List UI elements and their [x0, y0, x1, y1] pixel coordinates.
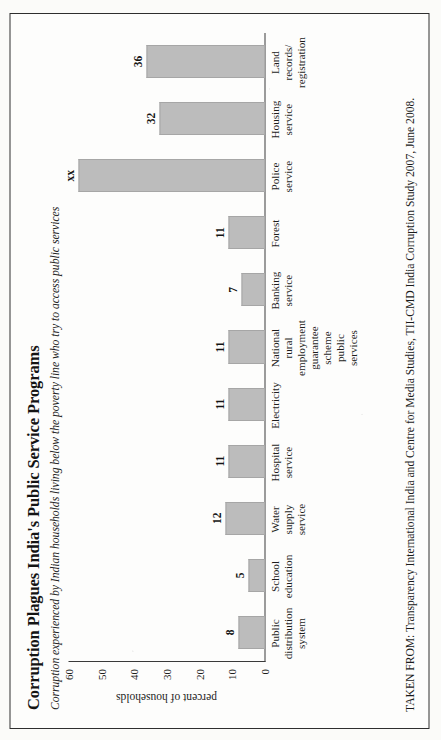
- bar-item[interactable]: 11: [68, 204, 264, 261]
- bar-rect[interactable]: [241, 273, 264, 306]
- x-category-label-line: service: [281, 435, 294, 490]
- bar-value-label: 36: [131, 56, 143, 68]
- bar-rect[interactable]: [228, 330, 264, 363]
- bar-item[interactable]: 36: [68, 33, 264, 90]
- bar-rect[interactable]: [78, 159, 264, 192]
- x-category-label: Forest: [268, 205, 360, 262]
- bar-item[interactable]: xx: [68, 147, 264, 204]
- x-category-label: Hospitalservice: [268, 434, 360, 491]
- bar-item[interactable]: 5: [68, 547, 264, 604]
- x-category-label-line: Housing: [268, 92, 281, 147]
- bar-item[interactable]: 12: [68, 490, 264, 547]
- bar-rect[interactable]: [146, 45, 264, 78]
- x-category-label: Watersupplyservice: [268, 491, 360, 548]
- x-category-label: Publicdistributionsystem: [268, 605, 360, 662]
- x-category-label-line: Electricity: [268, 378, 281, 433]
- figure-title: Corruption Plagues India's Public Servic…: [24, 30, 43, 710]
- bar-rect[interactable]: [248, 559, 264, 592]
- x-category-label: Landrecords/registration: [268, 34, 360, 91]
- x-category-label-line: School: [268, 549, 281, 604]
- y-axis-ticks: 0102030405060: [68, 666, 264, 692]
- bar-value-label: 11: [213, 456, 225, 467]
- y-tick-label: 50: [95, 669, 107, 680]
- figure-subtitle: Corruption experienced by Indian househo…: [48, 30, 62, 710]
- x-category-label-line: supply: [281, 492, 294, 547]
- bar-value-label: 8: [223, 630, 235, 636]
- y-tick-label: 10: [225, 669, 237, 680]
- bar-item[interactable]: 11: [68, 318, 264, 375]
- bar-rect[interactable]: [228, 445, 264, 478]
- x-category-label: Nationalruralemploymentguaranteeschemepu…: [268, 319, 360, 377]
- x-category-label-line: service: [281, 149, 294, 204]
- plot-area: 8512111111711xx3236: [68, 33, 265, 662]
- x-category-label-line: Land: [268, 35, 281, 90]
- bar-value-label: 11: [213, 342, 225, 353]
- x-category-label-line: rural: [281, 320, 294, 376]
- x-category-label-line: Hospital: [268, 435, 281, 490]
- bar-item[interactable]: 7: [68, 261, 264, 318]
- x-category-label-line: Banking: [268, 263, 281, 318]
- x-category-label: Bankingservice: [268, 262, 360, 319]
- x-category-label-line: distribution: [281, 606, 294, 661]
- x-category-label: Schooleducation: [268, 548, 360, 605]
- x-category-label-line: Police: [268, 149, 281, 204]
- bar-rect[interactable]: [238, 616, 264, 649]
- bar-rect[interactable]: [225, 502, 264, 535]
- bar-value-label: 11: [213, 399, 225, 410]
- scanned-page: Corruption Plagues India's Public Servic…: [0, 0, 441, 740]
- x-category-label-line: employment: [294, 320, 307, 376]
- x-category-label-line: registration: [294, 35, 307, 90]
- y-tick-label: 20: [193, 669, 205, 680]
- x-axis-category-labels: PublicdistributionsystemSchooleducationW…: [268, 34, 360, 662]
- x-category-label-line: service: [281, 92, 294, 147]
- bar-value-label: 5: [233, 572, 245, 578]
- bar-series: 8512111111711xx3236: [68, 33, 264, 661]
- bar-item[interactable]: 8: [68, 604, 264, 661]
- bar-rect[interactable]: [228, 216, 264, 249]
- source-note: TAKEN FROM: Transparency International I…: [403, 30, 418, 712]
- y-tick-label: 30: [160, 669, 172, 680]
- x-category-label-line: Public: [268, 606, 281, 661]
- y-tick-label: 0: [258, 669, 270, 675]
- x-category-label-line: scheme: [320, 320, 333, 376]
- x-category-label-line: Forest: [268, 206, 281, 261]
- bar-item[interactable]: 11: [68, 376, 264, 433]
- x-category-label-line: public services: [333, 320, 359, 376]
- bar-value-label: 32: [144, 113, 156, 125]
- x-category-label-line: Water: [268, 492, 281, 547]
- x-category-label-line: service: [294, 492, 307, 547]
- x-category-label: Electricity: [268, 377, 360, 434]
- x-category-label-line: guarantee: [307, 320, 320, 376]
- x-category-label-line: National: [268, 320, 281, 376]
- rotated-figure-canvas: Corruption Plagues India's Public Servic…: [0, 0, 441, 740]
- y-tick-label: 40: [127, 669, 139, 680]
- x-category-label: Policeservice: [268, 148, 360, 205]
- bar-item[interactable]: 32: [68, 90, 264, 147]
- bar-rect[interactable]: [228, 388, 264, 421]
- x-category-label-line: records/: [281, 35, 294, 90]
- x-category-label-line: education: [281, 549, 294, 604]
- bar-value-label: xx: [63, 170, 75, 182]
- bar-rect[interactable]: [159, 102, 264, 135]
- bar-chart: percent of households 0102030405060 8512…: [68, 28, 336, 712]
- figure-frame: Corruption Plagues India's Public Servic…: [9, 13, 429, 729]
- bar-item[interactable]: 11: [68, 433, 264, 490]
- x-category-label-line: service: [281, 263, 294, 318]
- x-category-label-line: system: [294, 606, 307, 661]
- y-axis-label: percent of households: [68, 690, 264, 704]
- y-tick-label: 60: [62, 669, 74, 680]
- bar-value-label: 7: [226, 287, 238, 293]
- bar-value-label: 11: [213, 227, 225, 238]
- x-category-label: Housingservice: [268, 91, 360, 148]
- bar-value-label: 12: [210, 513, 222, 525]
